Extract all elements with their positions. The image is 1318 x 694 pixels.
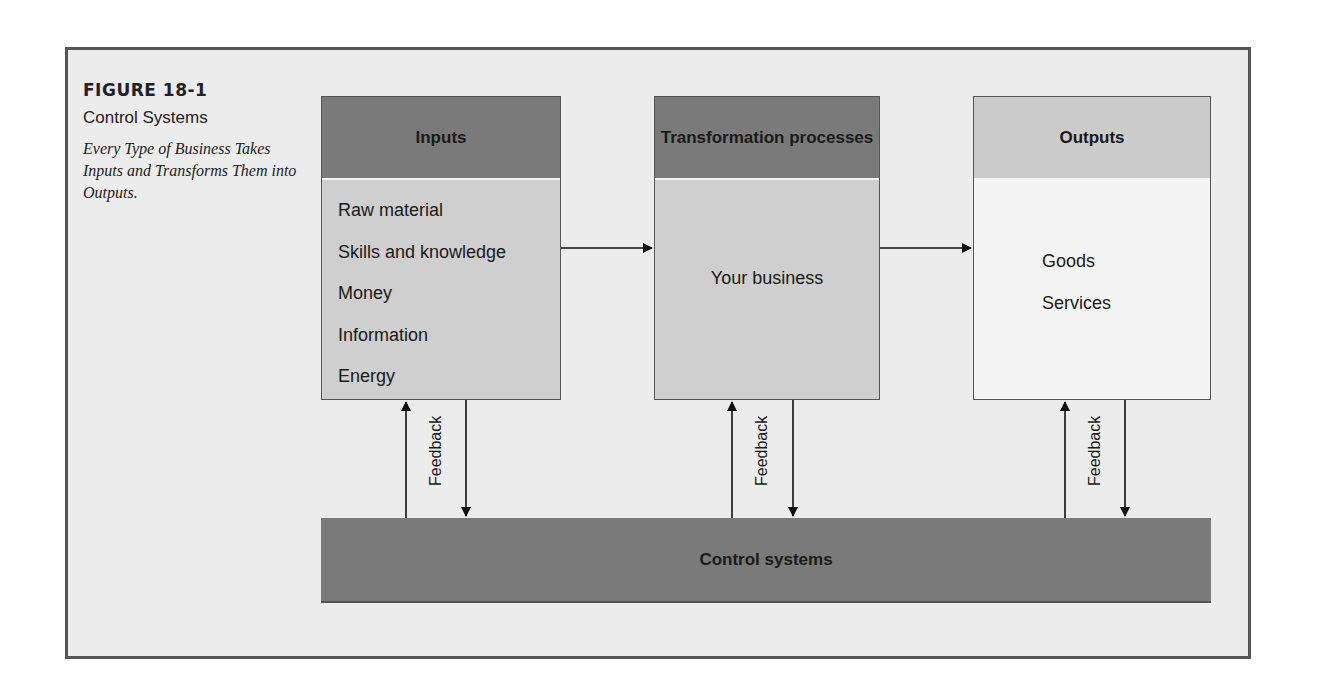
arrows-layer [0, 0, 1318, 694]
feedback-label: Feedback [753, 416, 771, 486]
feedback-label: Feedback [1086, 416, 1104, 486]
feedback-label: Feedback [427, 416, 445, 486]
